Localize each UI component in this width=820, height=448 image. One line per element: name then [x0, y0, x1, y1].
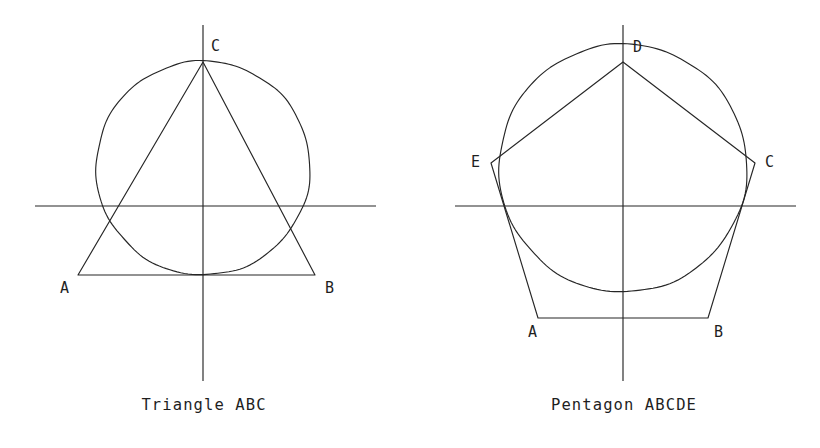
vertex-label-c: C: [211, 37, 220, 55]
triangle-vertex-labels: A B C: [60, 37, 334, 297]
vertex-label-c: C: [765, 153, 774, 171]
diagram-canvas: A B C Triangle ABC A B C D E Pentagon AB…: [0, 0, 820, 448]
vertex-label-a: A: [528, 323, 537, 341]
vertex-label-b: B: [714, 323, 723, 341]
vertex-label-d: D: [633, 38, 642, 56]
triangle-caption: Triangle ABC: [141, 396, 266, 414]
geometry-diagram: A B C Triangle ABC A B C D E Pentagon AB…: [0, 0, 820, 448]
vertex-label-b: B: [325, 279, 334, 297]
figure-triangle: A B C Triangle ABC: [35, 25, 376, 414]
vertex-label-a: A: [60, 279, 69, 297]
vertex-label-e: E: [471, 153, 480, 171]
pentagon-caption: Pentagon ABCDE: [551, 396, 697, 414]
figure-pentagon: A B C D E Pentagon ABCDE: [455, 25, 796, 414]
